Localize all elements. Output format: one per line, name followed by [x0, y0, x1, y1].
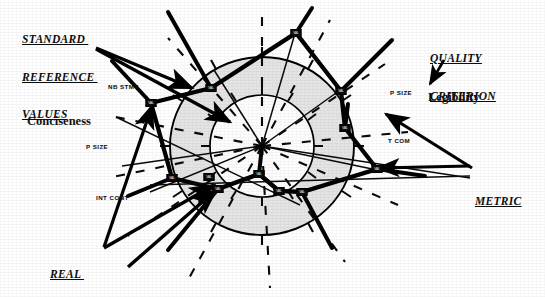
- annotation-line: REFERENCE: [22, 71, 98, 84]
- axis-label-p-size-right: P SIZE: [390, 89, 412, 96]
- annotation-metric: METRIC: [475, 170, 522, 233]
- metric-node-marker: VAL: [336, 87, 347, 95]
- axis-label-p-size-left: P SIZE: [86, 143, 108, 150]
- annotation-line: REAL: [50, 268, 105, 281]
- metric-node-marker: VAL: [206, 84, 217, 92]
- metric-node-marker: VAL: [213, 185, 224, 193]
- annotation-quality-criterion: QUALITY CRITERION: [430, 27, 496, 127]
- metric-node-marker: VAL: [167, 174, 178, 182]
- metric-node-marker: VAL: [274, 187, 285, 195]
- metric-node-marker: VAL: [146, 99, 157, 107]
- annotation-real-module-values: REAL MODULE VALUES: [50, 243, 105, 297]
- metric-node-marker: VAL: [372, 165, 383, 173]
- axis-label-int-cont: INT CONT: [96, 194, 129, 201]
- label-legibility: Legibility: [428, 90, 479, 105]
- kiviat-diagram-canvas: STANDARD REFERENCE VALUES QUALITY CRITER…: [0, 0, 545, 297]
- annotation-line: STANDARD: [22, 33, 98, 46]
- annotation-line: QUALITY: [430, 52, 496, 65]
- axis-label-t-com: T COM: [388, 137, 410, 144]
- annotation-line: METRIC: [475, 195, 522, 208]
- metric-node-marker: VAL: [204, 173, 215, 181]
- metric-node-marker: VAL: [254, 170, 265, 178]
- metric-node-marker: VAL: [291, 29, 302, 37]
- axis-label-nb-stmt: NB STMT: [108, 83, 139, 90]
- label-conciseness: Conciseness: [27, 114, 91, 129]
- metric-node-marker: VAL: [340, 124, 351, 132]
- metric-node-marker: VAL: [297, 188, 308, 196]
